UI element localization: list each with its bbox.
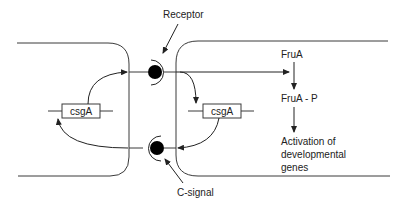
c-signal-diagram: Receptor C-signal csgA csgA FruA FruA - … [0, 0, 402, 206]
receptor-label: Receptor [163, 9, 204, 20]
arrow-receptor-to-csga-left [58, 119, 128, 148]
activation-label-line2: developmental [281, 149, 346, 160]
c-signal-dot-bottom [150, 141, 164, 155]
csga-left-label: csgA [70, 106, 93, 117]
activation-label-line1: Activation of [281, 136, 336, 147]
arrow-csga-left-to-receptor [88, 72, 127, 104]
receptor-pointer [163, 24, 178, 53]
arrow-receptor-to-csga-right [180, 72, 196, 103]
c-signal-dot-top [148, 65, 162, 79]
frua-p-label: FruA - P [281, 93, 318, 104]
c-signal-label: C-signal [177, 187, 214, 198]
activation-label-line3: genes [281, 162, 308, 173]
arrow-csga-right-to-c-signal [178, 118, 219, 148]
c-signal-pointer [165, 159, 183, 183]
frua-label: FruA [281, 49, 303, 60]
csga-right-label: csgA [211, 106, 234, 117]
